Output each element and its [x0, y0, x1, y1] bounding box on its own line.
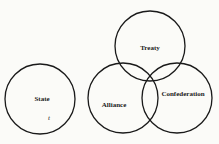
- state-annotation: t: [48, 114, 51, 122]
- alliance-circle: [88, 63, 158, 133]
- venn-diagram: State t Treaty Alliance Confederation: [0, 0, 219, 144]
- state-label: State: [34, 95, 49, 103]
- confederation-circle: [142, 63, 212, 133]
- treaty-label: Treaty: [140, 44, 160, 52]
- alliance-label: Alliance: [102, 101, 127, 109]
- confederation-label: Confederation: [161, 90, 204, 98]
